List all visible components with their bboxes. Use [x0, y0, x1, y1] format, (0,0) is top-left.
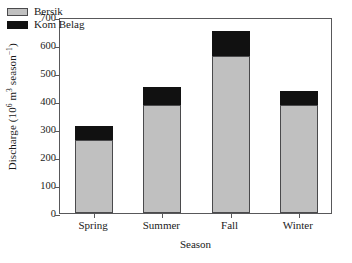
y-axis-title-end: ) [7, 43, 19, 47]
legend-item[interactable]: Kom Belag [7, 18, 84, 31]
y-axis-tick-label: 100 [22, 181, 56, 192]
y-axis-tick-label: 300 [22, 125, 56, 136]
chart-legend: BersikKom Belag [7, 5, 84, 31]
y-axis-tick-label: 500 [22, 69, 56, 80]
bar-segment-kom-belag[interactable] [143, 87, 181, 105]
bar-series-container [60, 19, 331, 213]
y-axis-tick-mark [55, 159, 60, 160]
y-axis-tick-mark [55, 131, 60, 132]
legend-swatch-bersik [7, 8, 28, 16]
y-axis-tick-label: 600 [22, 41, 56, 52]
x-axis-tick-mark [162, 213, 163, 218]
x-axis-tick-label: Fall [221, 219, 238, 231]
y-axis-tick-labels: 0100200300400500600700 [22, 0, 56, 263]
bar-segment-bersik[interactable] [212, 56, 250, 213]
y-axis-tick-mark [55, 187, 60, 188]
bar-segment-kom-belag[interactable] [280, 91, 318, 106]
y-axis-title-mid: m [7, 92, 19, 104]
legend-label: Kom Belag [34, 19, 84, 30]
legend-label: Bersik [34, 6, 63, 17]
y-axis-title-prefix: Discharge (10 [7, 107, 19, 170]
y-axis-tick-label: 400 [22, 97, 56, 108]
y-axis-tick-mark [55, 215, 60, 216]
y-axis-title: Discharge (106 m3 season−1) [0, 0, 24, 214]
bar-group[interactable] [212, 17, 250, 213]
bar-segment-bersik[interactable] [280, 105, 318, 213]
bar-segment-bersik[interactable] [143, 105, 181, 213]
bar-group[interactable] [75, 17, 113, 213]
y-axis-tick-mark [55, 75, 60, 76]
bar-group[interactable] [280, 17, 318, 213]
y-axis-title-sup-3: 3 [5, 88, 14, 92]
bar-segment-bersik[interactable] [75, 140, 113, 213]
x-axis-tick-label: Winter [283, 219, 313, 231]
y-axis-tick-mark [55, 103, 60, 104]
legend-item[interactable]: Bersik [7, 5, 84, 18]
legend-swatch-kom-belag [7, 21, 28, 29]
x-axis-tick-mark [231, 213, 232, 218]
y-axis-tick-mark [55, 47, 60, 48]
x-axis-tick-mark [94, 213, 95, 218]
y-axis-title-sup-neg1: −1 [5, 47, 14, 55]
plot-area [59, 18, 332, 214]
x-axis-tick-mark [299, 213, 300, 218]
y-axis-title-text: Discharge (106 m3 season−1) [5, 43, 19, 170]
y-axis-title-sup-6: 6 [5, 104, 14, 108]
x-axis-tick-label: Spring [78, 219, 107, 231]
y-axis-title-suffix: season [7, 55, 19, 88]
bar-segment-kom-belag[interactable] [212, 31, 250, 56]
bar-segment-kom-belag[interactable] [75, 126, 113, 140]
y-axis-tick-label: 0 [22, 209, 56, 220]
bar-group[interactable] [143, 17, 181, 213]
x-axis-title: Season [59, 238, 332, 250]
y-axis-tick-label: 200 [22, 153, 56, 164]
chart-figure: Discharge (106 m3 season−1) 010020030040… [0, 0, 352, 263]
x-axis-tick-label: Summer [143, 219, 180, 231]
